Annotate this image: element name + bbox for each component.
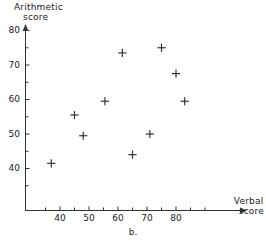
x-axis-tick-label: 40 bbox=[50, 214, 70, 223]
axis-lines bbox=[23, 24, 247, 213]
x-axis-arrow-icon bbox=[240, 208, 247, 214]
data-point-marker bbox=[157, 44, 165, 52]
y-axis-tick-label: 50 bbox=[4, 130, 20, 139]
x-axis-tick-label: 80 bbox=[166, 214, 186, 223]
data-point-marker bbox=[101, 97, 109, 105]
data-point-marker bbox=[118, 49, 126, 57]
data-point-marker bbox=[128, 151, 136, 159]
scatter-plot-figure: Arithmetic score Verbal score 4050607080… bbox=[0, 0, 266, 242]
y-axis-tick-label: 80 bbox=[4, 26, 20, 35]
data-point-marker bbox=[181, 97, 189, 105]
data-point-marker bbox=[146, 130, 154, 138]
data-point-marker bbox=[172, 70, 180, 78]
plot-canvas bbox=[0, 0, 266, 242]
x-axis-tick-label: 70 bbox=[137, 214, 157, 223]
y-axis-arrow-icon bbox=[23, 24, 29, 31]
data-point-marker bbox=[70, 111, 78, 119]
data-point-marker bbox=[79, 132, 87, 140]
y-axis-tick-label: 40 bbox=[4, 164, 20, 173]
data-point-markers bbox=[47, 44, 189, 168]
figure-caption: b. bbox=[0, 227, 266, 237]
y-axis-tick-label: 60 bbox=[4, 95, 20, 104]
x-axis-ticks bbox=[46, 207, 206, 211]
x-axis-tick-label: 60 bbox=[108, 214, 128, 223]
y-axis-tick-label: 70 bbox=[4, 61, 20, 70]
data-point-marker bbox=[47, 159, 55, 167]
y-axis-ticks bbox=[26, 31, 30, 186]
x-axis-tick-label: 50 bbox=[79, 214, 99, 223]
